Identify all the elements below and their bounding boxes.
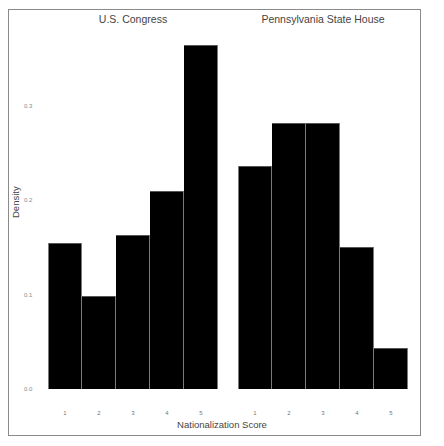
x-tick-label: 5 xyxy=(389,410,392,416)
x-tick-label: 5 xyxy=(199,410,202,416)
histogram-bar xyxy=(184,45,218,389)
x-tick-label: 3 xyxy=(321,410,324,416)
x-tick-label: 1 xyxy=(253,410,256,416)
histogram-bar xyxy=(272,123,306,389)
x-axis-label: Nationalization Score xyxy=(0,419,444,430)
y-tick-label: 0.3 xyxy=(24,103,32,109)
histogram-bar xyxy=(150,191,184,389)
x-tick-label: 4 xyxy=(165,410,168,416)
x-tick-label: 2 xyxy=(287,410,290,416)
y-tick-label: 0.2 xyxy=(24,197,32,203)
x-tick-label: 3 xyxy=(131,410,134,416)
histogram-bar xyxy=(340,247,374,389)
histogram-bar xyxy=(374,348,408,389)
y-axis-label: Density xyxy=(10,186,21,218)
x-tick-label: 1 xyxy=(63,410,66,416)
histogram-bar xyxy=(48,243,82,389)
panel-title-left: U.S. Congress xyxy=(48,13,218,25)
y-tick-label: 0.0 xyxy=(24,386,32,392)
histogram-bar xyxy=(306,123,340,389)
histogram-bar xyxy=(82,296,116,389)
x-tick-label: 4 xyxy=(355,410,358,416)
y-tick-label: 0.1 xyxy=(24,292,32,298)
histogram-bar xyxy=(238,166,272,389)
panel-title-right: Pennsylvania State House xyxy=(238,13,408,25)
histogram-bar xyxy=(116,235,150,389)
x-tick-label: 2 xyxy=(97,410,100,416)
